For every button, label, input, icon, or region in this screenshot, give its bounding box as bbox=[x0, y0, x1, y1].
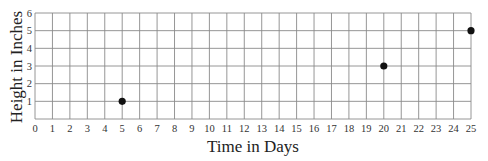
x-tick-label: 24 bbox=[448, 123, 459, 134]
x-axis-title: Time in Days bbox=[207, 137, 299, 156]
x-tick-label: 13 bbox=[256, 123, 267, 134]
x-tick-label: 8 bbox=[172, 123, 177, 134]
scatter-chart: 123456 012345678910111213141516171819202… bbox=[0, 0, 488, 161]
chart-grid bbox=[35, 13, 471, 119]
data-point bbox=[380, 62, 387, 69]
x-tick-label: 11 bbox=[222, 123, 232, 134]
x-tick-label: 12 bbox=[239, 123, 250, 134]
x-tick-label: 3 bbox=[85, 123, 90, 134]
data-point bbox=[467, 27, 474, 34]
y-tick-label: 4 bbox=[27, 43, 33, 54]
x-tick-label: 6 bbox=[137, 123, 142, 134]
y-tick-label: 6 bbox=[27, 8, 32, 19]
x-tick-label: 4 bbox=[102, 123, 108, 134]
x-tick-label: 21 bbox=[396, 123, 407, 134]
y-tick-label: 5 bbox=[27, 25, 32, 36]
x-tick-label: 22 bbox=[413, 123, 424, 134]
x-tick-label: 7 bbox=[154, 123, 159, 134]
x-tick-label: 14 bbox=[274, 123, 285, 134]
y-tick-label: 1 bbox=[27, 96, 32, 107]
x-tick-label: 16 bbox=[309, 123, 320, 134]
x-tick-label: 2 bbox=[67, 123, 72, 134]
x-tick-label: 5 bbox=[120, 123, 125, 134]
x-tick-label: 19 bbox=[361, 123, 372, 134]
y-axis-title: Height in Inches bbox=[7, 11, 26, 123]
x-axis-ticks: 0123456789101112131415161718192021222324… bbox=[32, 123, 476, 134]
y-tick-label: 2 bbox=[27, 78, 32, 89]
x-tick-label: 23 bbox=[431, 123, 442, 134]
x-tick-label: 17 bbox=[326, 123, 337, 134]
y-axis-ticks: 123456 bbox=[27, 8, 33, 107]
x-tick-label: 20 bbox=[379, 123, 390, 134]
x-tick-label: 1 bbox=[50, 123, 55, 134]
x-tick-label: 10 bbox=[204, 123, 215, 134]
data-point bbox=[119, 98, 126, 105]
x-tick-label: 25 bbox=[466, 123, 477, 134]
x-tick-label: 9 bbox=[189, 123, 194, 134]
x-tick-label: 18 bbox=[344, 123, 355, 134]
x-tick-label: 0 bbox=[32, 123, 37, 134]
y-tick-label: 3 bbox=[27, 61, 32, 72]
x-tick-label: 15 bbox=[291, 123, 302, 134]
